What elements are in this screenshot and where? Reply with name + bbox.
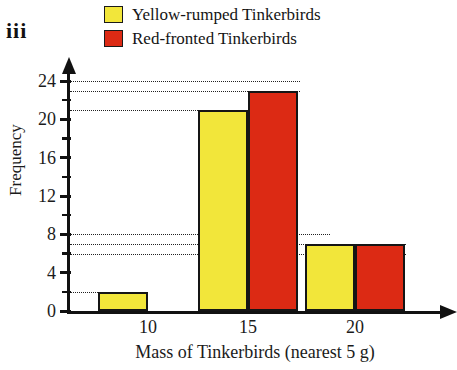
x-tick-label-15: 15 [218, 318, 278, 336]
y-tick-major-16 [60, 156, 71, 159]
y-tick-label-text: 24 [26, 72, 56, 90]
x-axis-line [67, 311, 443, 314]
y-tick-major-20 [60, 118, 71, 121]
y-tick-major-8 [60, 233, 71, 236]
y-tick-minor-10 [62, 214, 71, 217]
y-tick-minor-14 [62, 176, 71, 179]
y-tick-minor-2 [62, 291, 71, 294]
x-tick-label-10: 10 [118, 318, 178, 336]
y-axis-arrow-icon [62, 57, 76, 74]
bar-15-yellow-rumped [198, 110, 248, 311]
y-tick-label-text: 16 [26, 149, 56, 167]
y-tick-major-4 [60, 271, 71, 274]
y-tick-major-12 [60, 195, 71, 198]
y-axis-line [67, 72, 70, 314]
bar-20-red-fronted [355, 244, 405, 311]
gridline-24 [70, 81, 300, 82]
x-axis-arrow-icon [440, 305, 457, 319]
x-tick-label-20: 20 [325, 318, 385, 336]
y-tick-label-text: 12 [26, 187, 56, 205]
y-tick-minor-22 [62, 99, 71, 102]
chart-figure: iii Yellow-rumped Tinkerbirds Red-fronte… [0, 0, 457, 370]
y-tick-label-text: 20 [26, 110, 56, 128]
y-tick-major-24 [60, 80, 71, 83]
bar-10-yellow-rumped [98, 292, 148, 311]
bar-20-yellow-rumped [305, 244, 355, 311]
y-tick-major-0 [60, 310, 71, 313]
bar-15-red-fronted [248, 91, 298, 311]
y-tick-minor-18 [62, 137, 71, 140]
x-axis-title: Mass of Tinkerbirds (nearest 5 g) [67, 342, 443, 363]
y-axis-title: Frequency [6, 100, 26, 220]
plot-area: 04812162024 101520 Frequency Mass of Tin… [0, 0, 457, 370]
y-tick-label-text: 4 [26, 264, 56, 282]
y-tick-label-text: 8 [26, 225, 56, 243]
y-tick-label-text: 0 [26, 302, 56, 320]
y-tick-minor-6 [62, 252, 71, 255]
